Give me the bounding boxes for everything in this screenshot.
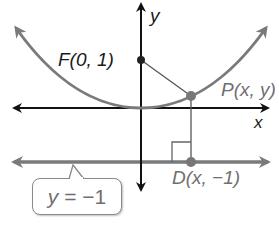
point-P — [186, 91, 196, 101]
directrix-equation-rest: = −1 — [58, 185, 106, 208]
parabola-diagram: y x F(0, 1) P(x, y) D(x, −1) y = −1 — [0, 0, 279, 225]
directrix-equation-var: y — [48, 185, 59, 208]
callout-pointer-joint — [70, 177, 83, 180]
y-axis-label: y — [150, 6, 160, 25]
point-D — [186, 157, 196, 167]
focus-point — [137, 56, 145, 64]
focus-label-text: F(0, 1) — [58, 49, 114, 70]
directrix-equation: y = −1 — [33, 186, 121, 207]
point-D-label: D(x, −1) — [172, 168, 240, 187]
point-P-label: P(x, y) — [221, 80, 276, 99]
point-P-label-text: P(x, y) — [221, 79, 276, 100]
x-axis-label: x — [254, 114, 263, 131]
segment-FP — [141, 60, 191, 96]
directrix-callout: y = −1 — [32, 178, 122, 215]
point-D-label-text: D(x, −1) — [172, 167, 240, 188]
focus-label: F(0, 1) — [58, 50, 114, 69]
